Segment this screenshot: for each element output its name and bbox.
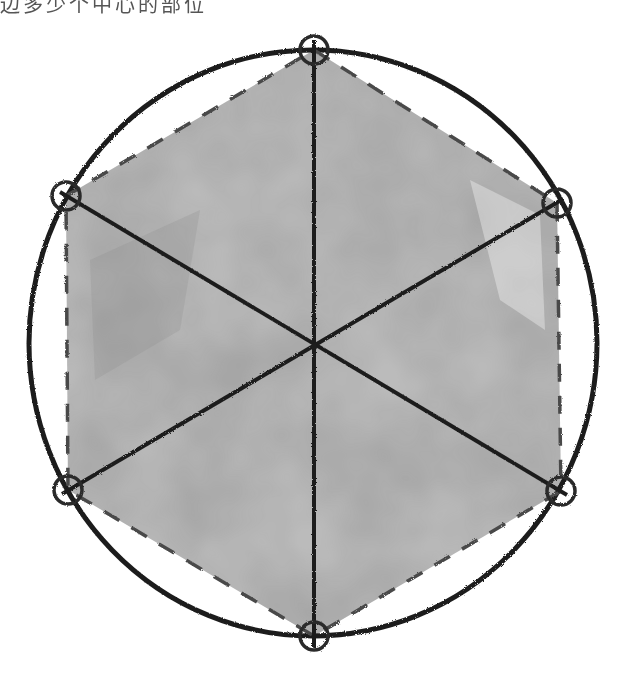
center-point — [311, 344, 317, 350]
hexagon-circle-diagram — [0, 0, 625, 693]
